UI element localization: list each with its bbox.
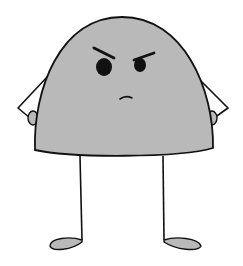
right-eye xyxy=(134,58,146,72)
cartoon-character xyxy=(0,0,243,266)
left-eye xyxy=(96,58,112,76)
right-foot xyxy=(164,238,201,249)
legs xyxy=(50,156,201,249)
body xyxy=(35,17,213,156)
left-foot xyxy=(50,238,82,249)
